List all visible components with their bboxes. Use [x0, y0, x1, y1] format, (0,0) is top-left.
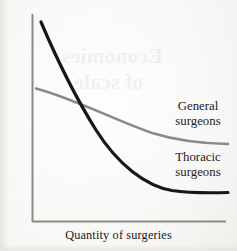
series-label-general-surgeons-line-1: General: [161, 99, 235, 114]
x-axis-title: Quantity of surgeries: [0, 228, 237, 243]
chart-figure: Economies of scale Quantity of surgeries…: [0, 0, 237, 251]
series-label-thoracic-surgeons-line-1: Thoracic: [161, 150, 235, 165]
series-label-general-surgeons-line-2: surgeons: [161, 114, 235, 129]
series-label-thoracic-surgeons: Thoracic surgeons: [161, 150, 235, 179]
series-label-general-surgeons: General surgeons: [161, 99, 235, 128]
series-label-thoracic-surgeons-line-2: surgeons: [161, 165, 235, 180]
